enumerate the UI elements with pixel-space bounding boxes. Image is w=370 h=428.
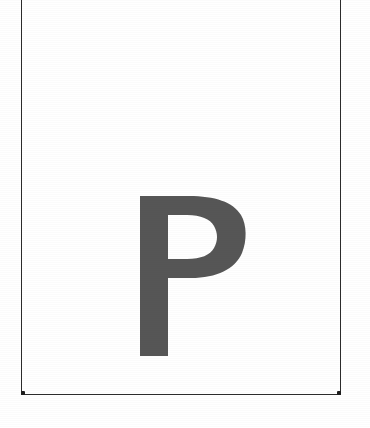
- border-corner-bottom-right: [337, 391, 341, 395]
- card-border-frame: [21, 0, 341, 395]
- border-corner-bottom-left: [21, 391, 25, 395]
- scanned-page: [0, 0, 370, 428]
